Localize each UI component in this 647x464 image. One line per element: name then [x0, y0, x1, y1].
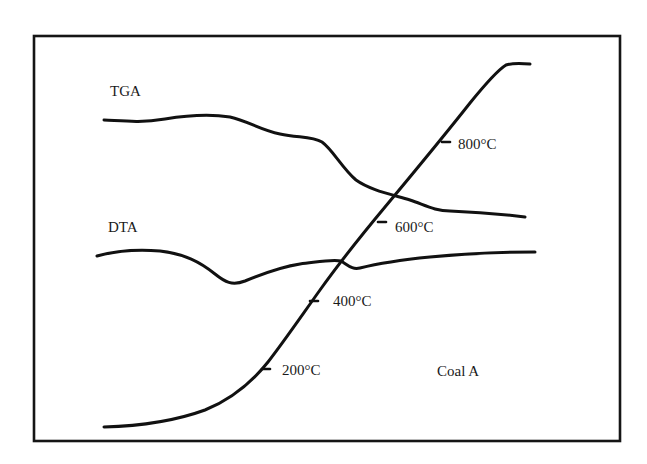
dta-label: DTA — [108, 219, 138, 235]
temp-400-label: 400°C — [333, 293, 372, 309]
temp-600-label: 600°C — [395, 219, 434, 235]
thermal-analysis-chart: TGA DTA 200°C 400°C 600°C 800°C Coal A — [0, 0, 647, 464]
temp-200-label: 200°C — [282, 362, 321, 378]
tga-label: TGA — [110, 83, 141, 99]
tga-curve — [104, 115, 525, 217]
sample-label: Coal A — [437, 363, 479, 379]
dta-curve — [97, 250, 535, 283]
temp-800-label: 800°C — [458, 136, 497, 152]
